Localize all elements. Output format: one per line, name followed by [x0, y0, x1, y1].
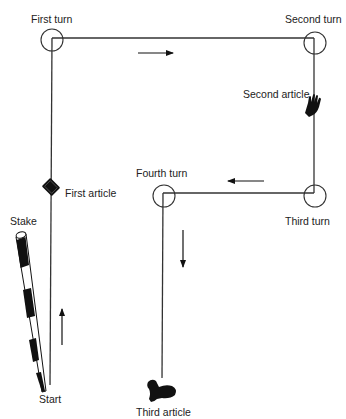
first-turn-label: First turn: [31, 13, 72, 25]
first-article-label: First article: [65, 187, 116, 199]
second-article-label: Second article: [243, 88, 310, 100]
fourth-turn-circle: [153, 185, 175, 207]
boot-icon: [147, 380, 176, 402]
stake-icon: [15, 231, 46, 392]
search-path-diagram: [0, 0, 346, 419]
leg-start-to-first-turn: [50, 38, 52, 385]
turn-markers: [41, 29, 326, 207]
third-turn-circle: [304, 185, 326, 207]
stake-label: Stake: [10, 215, 37, 227]
fourth-turn-label: Fourth turn: [136, 167, 187, 179]
third-article-label: Third article: [136, 406, 191, 418]
third-turn-label: Third turn: [285, 215, 330, 227]
second-turn-label: Second turn: [285, 13, 342, 25]
wallet-icon: [42, 178, 60, 196]
second-turn-circle: [304, 32, 326, 54]
leg-fourth-turn-to-third-article: [162, 193, 163, 378]
start-label: Start: [39, 393, 61, 405]
